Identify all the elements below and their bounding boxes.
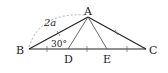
side-length-label: 2a: [43, 17, 56, 28]
label-D: D: [64, 53, 73, 66]
label-B: B: [16, 44, 24, 57]
label-E: E: [103, 53, 111, 66]
label-A: A: [83, 5, 93, 18]
angle-label: 30°: [51, 39, 67, 49]
label-C: C: [149, 44, 157, 57]
triangle-diagram: A B C D E 2a 30°: [0, 0, 168, 73]
